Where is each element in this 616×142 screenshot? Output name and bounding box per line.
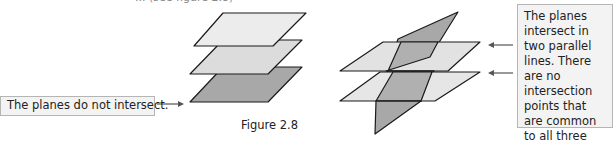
right-annotation-text: The planes intersect in two parallel lin… bbox=[524, 9, 596, 142]
left-annotation-text: The planes do not intersect. bbox=[7, 98, 168, 112]
right-arrows bbox=[488, 42, 513, 76]
figure-caption: Figure 2.8 bbox=[241, 118, 298, 132]
oblique-plane-bottom bbox=[375, 101, 421, 134]
parallel-planes-diagram bbox=[190, 13, 306, 102]
left-annotation-box: The planes do not intersect. bbox=[0, 96, 155, 116]
intersecting-planes-diagram bbox=[340, 12, 480, 134]
right-annotation-box: The planes intersect in two parallel lin… bbox=[517, 4, 613, 128]
